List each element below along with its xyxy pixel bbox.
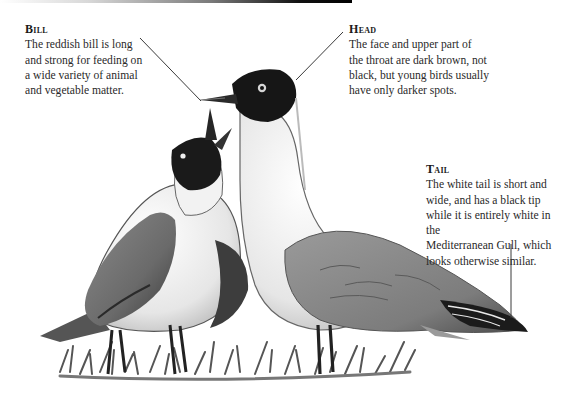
head-leader-line bbox=[296, 32, 343, 80]
grass bbox=[60, 342, 415, 379]
head-callout: Head The face and upper part of the thro… bbox=[349, 22, 514, 98]
tail-callout-title: Tail bbox=[426, 162, 564, 177]
bill-callout: Bill The reddish bill is long and strong… bbox=[25, 22, 175, 98]
left-gull bbox=[40, 108, 248, 374]
tail-callout: Tail The white tail is short and wide, a… bbox=[426, 162, 564, 269]
head-callout-text: The face and upper part of the throat ar… bbox=[349, 37, 514, 98]
tail-callout-text: The white tail is short and wide, and ha… bbox=[426, 177, 564, 269]
bill-callout-text: The reddish bill is long and strong for … bbox=[25, 37, 175, 98]
head-callout-title: Head bbox=[349, 22, 514, 37]
bill-callout-title: Bill bbox=[25, 22, 175, 37]
